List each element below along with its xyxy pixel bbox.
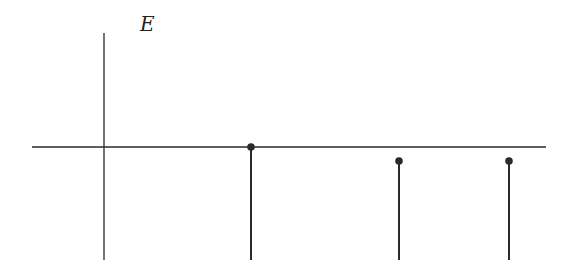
stem-dot-2 [395,157,403,165]
stem-dot-1 [247,143,255,151]
energy-axis-label: E [140,12,155,36]
stem-dot-3 [505,157,513,165]
energy-level-diagram [0,0,567,270]
